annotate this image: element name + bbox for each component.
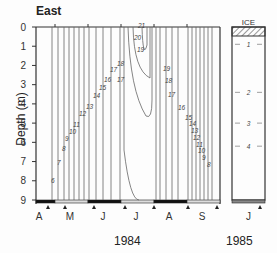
svg-text:12: 12 — [193, 134, 201, 141]
svg-text:7: 7 — [57, 159, 61, 166]
svg-text:16: 16 — [104, 76, 112, 83]
svg-text:2: 2 — [20, 60, 26, 71]
svg-text:1: 1 — [247, 41, 251, 48]
svg-text:8: 8 — [20, 175, 26, 186]
svg-text:19: 19 — [137, 46, 145, 53]
svg-text:15: 15 — [99, 84, 107, 91]
svg-text:4: 4 — [20, 98, 26, 109]
svg-text:3: 3 — [20, 79, 26, 90]
svg-text:9: 9 — [20, 195, 26, 206]
svg-text:10: 10 — [69, 128, 77, 135]
svg-text:17: 17 — [110, 66, 118, 73]
svg-text:21: 21 — [137, 22, 146, 29]
svg-text:20: 20 — [133, 34, 142, 41]
svg-text:13: 13 — [191, 127, 199, 134]
svg-text:13: 13 — [86, 103, 94, 110]
svg-text:19: 19 — [163, 65, 171, 72]
svg-text:4: 4 — [247, 143, 251, 150]
svg-text:8: 8 — [207, 161, 211, 168]
svg-text:J: J — [246, 211, 251, 222]
svg-text:14: 14 — [189, 120, 197, 127]
svg-text:S: S — [199, 211, 206, 222]
svg-text:16: 16 — [178, 104, 186, 111]
svg-text:9: 9 — [202, 154, 206, 161]
svg-text:A: A — [36, 211, 43, 222]
svg-text:3: 3 — [247, 120, 251, 127]
svg-text:17: 17 — [168, 91, 176, 98]
svg-text:A: A — [166, 211, 173, 222]
svg-text:7: 7 — [20, 156, 26, 167]
svg-text:6: 6 — [20, 137, 26, 148]
svg-text:2: 2 — [246, 89, 251, 96]
svg-text:0: 0 — [20, 22, 26, 33]
svg-text:ICE: ICE — [242, 18, 255, 27]
svg-text:M: M — [66, 211, 74, 222]
svg-text:11: 11 — [73, 121, 80, 128]
svg-text:8: 8 — [62, 145, 66, 152]
svg-text:6: 6 — [51, 177, 55, 184]
svg-text:9: 9 — [65, 135, 69, 142]
svg-text:1: 1 — [20, 41, 26, 52]
svg-text:J: J — [134, 211, 139, 222]
svg-text:14: 14 — [93, 92, 101, 99]
svg-text:18: 18 — [117, 60, 125, 67]
svg-text:18: 18 — [165, 77, 173, 84]
svg-text:17: 17 — [117, 76, 125, 83]
isotherm-plot: 0123456789AMJJAS678910111213141516171718… — [0, 0, 277, 253]
svg-text:5: 5 — [20, 118, 26, 129]
svg-text:10: 10 — [198, 147, 206, 154]
svg-text:J: J — [101, 211, 106, 222]
svg-text:12: 12 — [79, 110, 87, 117]
